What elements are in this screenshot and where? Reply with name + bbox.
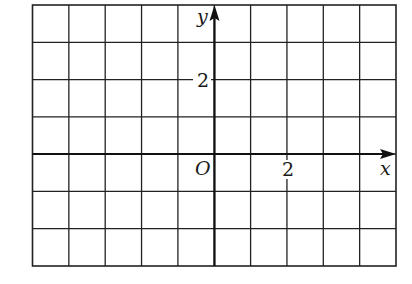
- x-tick-label: 2: [282, 158, 294, 180]
- x-axis-label: x: [380, 157, 391, 179]
- y-tick-label: 2: [197, 69, 209, 91]
- origin-label: O: [195, 157, 211, 179]
- coordinate-grid-diagram: y 2 O 2 x: [0, 0, 412, 284]
- y-axis-label: y: [196, 5, 208, 27]
